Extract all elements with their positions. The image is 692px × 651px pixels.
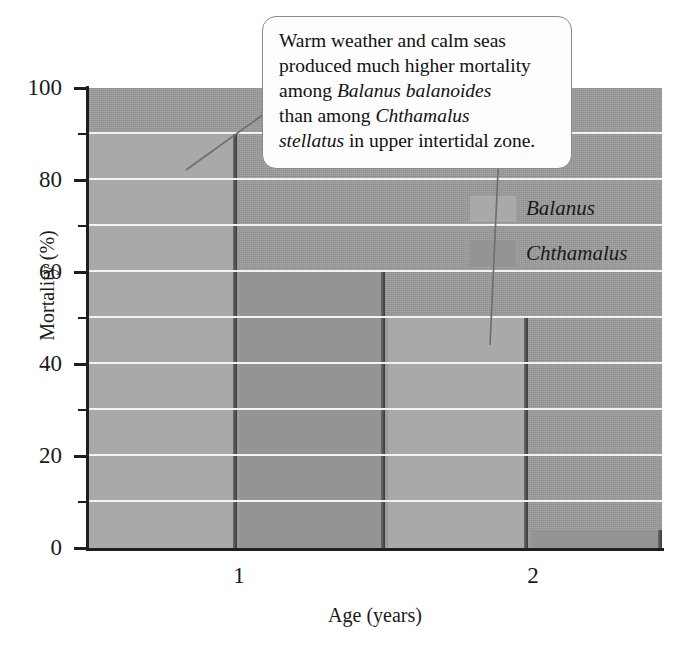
callout-box: Warm weather and calm seas produced much…: [262, 16, 572, 169]
y-tick-label-0: 0: [6, 536, 62, 559]
callout-line-5: stellatus in upper intertidal zone.: [279, 129, 555, 154]
gridline-40: [88, 362, 662, 364]
gridline-10: [88, 500, 662, 502]
species-name-balanus-balanoides: Balanus balanoides: [337, 80, 491, 101]
x-tick-label-1: 1: [219, 564, 259, 587]
y-tick-60: [74, 271, 87, 274]
y-tick-30: [78, 409, 87, 411]
gridline-50: [88, 316, 662, 318]
y-tick-label-100: 100: [6, 76, 62, 99]
species-name-stellatus: stellatus: [279, 130, 344, 151]
x-axis-title: Age (years): [88, 604, 662, 627]
legend-label-chthamalus: Chthamalus: [526, 241, 628, 266]
gridline-30: [88, 408, 662, 410]
legend-label-balanus: Balanus: [526, 196, 595, 221]
bar-balanus-age1: [88, 134, 237, 548]
legend: Balanus Chthamalus: [470, 186, 628, 276]
callout-line-2: produced much higher mortality: [279, 54, 555, 79]
callout-text-3: among: [279, 80, 337, 101]
legend-item-chthamalus: Chthamalus: [470, 231, 628, 276]
bar-edge: [658, 530, 662, 548]
species-name-chthamalus: Chthamalus: [375, 105, 469, 126]
bar-edge: [524, 318, 528, 548]
bar-balanus-age2: [388, 318, 528, 548]
y-tick-90: [78, 133, 87, 135]
legend-item-balanus: Balanus: [470, 186, 628, 231]
y-tick-0: [74, 547, 87, 550]
callout-line-4: than among Chthamalus: [279, 104, 555, 129]
gridline-20: [88, 454, 662, 456]
callout-text-1: Warm weather and calm seas: [279, 30, 506, 51]
callout-line-1: Warm weather and calm seas: [279, 29, 555, 54]
y-axis-title: Mortality (%): [36, 176, 59, 396]
bar-edge: [233, 134, 237, 548]
callout-text-2: produced much higher mortality: [279, 55, 531, 76]
callout-text-5: in upper intertidal zone.: [344, 130, 535, 151]
y-tick-80: [74, 179, 87, 182]
gridline-80: [88, 178, 662, 180]
x-tick-label-2: 2: [513, 564, 553, 587]
x-axis-line: [86, 548, 664, 551]
bar-chthamalus-age2: [532, 530, 662, 548]
y-tick-100: [74, 87, 87, 90]
y-tick-label-20: 20: [6, 444, 62, 467]
legend-swatch-chthamalus: [470, 241, 516, 267]
callout-text-4: than among: [279, 105, 375, 126]
y-tick-40: [74, 363, 87, 366]
y-tick-50: [78, 317, 87, 319]
callout-line-3: among Balanus balanoides: [279, 79, 555, 104]
bar-chart-figure: Balanus Chthamalus 100 80 60 40 20 0 1 2…: [0, 0, 692, 651]
bar-edge: [381, 272, 385, 548]
y-tick-70: [78, 225, 87, 227]
bar-chthamalus-age1: [240, 272, 385, 548]
y-tick-20: [74, 455, 87, 458]
y-tick-10: [78, 501, 87, 503]
legend-swatch-balanus: [470, 196, 516, 222]
